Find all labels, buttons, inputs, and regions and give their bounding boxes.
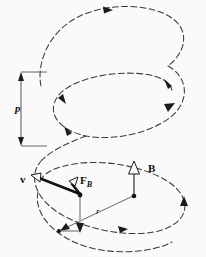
lower-trailing-arc	[37, 192, 172, 252]
helix-diagram-canvas	[0, 0, 206, 257]
magnetic-force-subscript: B	[87, 180, 92, 189]
magnetic-field-label: B	[148, 163, 155, 174]
radius-label: r	[96, 207, 100, 216]
v-vector-arrowhead-icon	[31, 173, 41, 182]
velocity-label: v	[20, 174, 26, 185]
pitch-label: p	[15, 103, 21, 114]
direction-arrow-icon	[180, 196, 188, 206]
magnetic-force-symbol: F	[80, 174, 87, 186]
pitch-arrow-down-icon	[18, 137, 24, 146]
fb-vector-arrowhead-icon	[69, 177, 78, 186]
pitch-bracket	[18, 72, 47, 146]
bottom-loop	[35, 160, 188, 234]
middle-loop	[53, 66, 184, 138]
direction-arrow-icon	[118, 226, 128, 233]
b-vector-arrowhead-icon	[129, 161, 140, 174]
drop-line-arrow-icon	[76, 223, 84, 233]
direction-arrow-icon	[164, 103, 175, 112]
magnetic-force-label: FB	[80, 175, 92, 189]
radius-arrow-icon	[60, 223, 70, 231]
helix-connector	[42, 136, 86, 160]
physics-figure: p v FB B r	[0, 0, 206, 257]
direction-arrow-icon	[58, 94, 66, 104]
pitch-arrow-up-icon	[18, 72, 24, 81]
